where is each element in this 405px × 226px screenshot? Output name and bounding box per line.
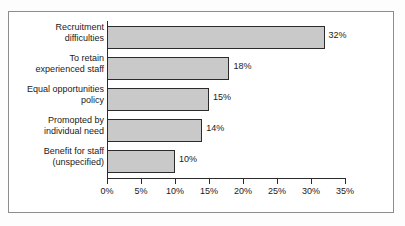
x-axis-tick-label: 35% <box>330 186 360 196</box>
bar-3 <box>107 119 202 142</box>
bar-1 <box>107 57 229 80</box>
x-axis-tick <box>243 179 244 184</box>
table-row: To retain experienced staff 18% <box>0 53 405 84</box>
x-axis-tick <box>141 179 142 184</box>
category-label: Recruitment difficulties <box>0 22 104 43</box>
x-axis-tick-label: 25% <box>262 186 292 196</box>
bar-2 <box>107 88 209 111</box>
bar-value-3: 14% <box>206 123 224 133</box>
x-axis-tick <box>311 179 312 184</box>
bar-chart-figure: Recruitment difficulties 32% To retain e… <box>0 0 405 226</box>
category-label: Equal opportunities policy <box>0 84 104 105</box>
x-axis-tick <box>107 179 108 184</box>
x-axis-tick <box>277 179 278 184</box>
x-axis-tick-label: 15% <box>194 186 224 196</box>
bar-value-1: 18% <box>233 61 251 71</box>
table-row: Equal opportunities policy 15% <box>0 84 405 115</box>
x-axis-tick <box>175 179 176 184</box>
x-axis-tick-label: 0% <box>92 186 122 196</box>
table-row: Promopted by individual need 14% <box>0 115 405 146</box>
table-row: Recruitment difficulties 32% <box>0 22 405 53</box>
x-axis-tick <box>209 179 210 184</box>
bar-4 <box>107 150 175 173</box>
bar-value-0: 32% <box>329 30 347 40</box>
y-axis-line <box>107 21 108 178</box>
table-row: Benefit for staff (unspecified) 10% <box>0 146 405 177</box>
category-label: Promopted by individual need <box>0 115 104 136</box>
category-label: To retain experienced staff <box>0 53 104 74</box>
x-axis-tick-label: 5% <box>126 186 156 196</box>
category-label: Benefit for staff (unspecified) <box>0 146 104 167</box>
x-axis-tick-label: 10% <box>160 186 190 196</box>
bar-0 <box>107 26 325 49</box>
bar-value-4: 10% <box>179 154 197 164</box>
bar-value-2: 15% <box>213 92 231 102</box>
x-axis-tick <box>345 179 346 184</box>
x-axis-tick-label: 20% <box>228 186 258 196</box>
x-axis-tick-label: 30% <box>296 186 326 196</box>
